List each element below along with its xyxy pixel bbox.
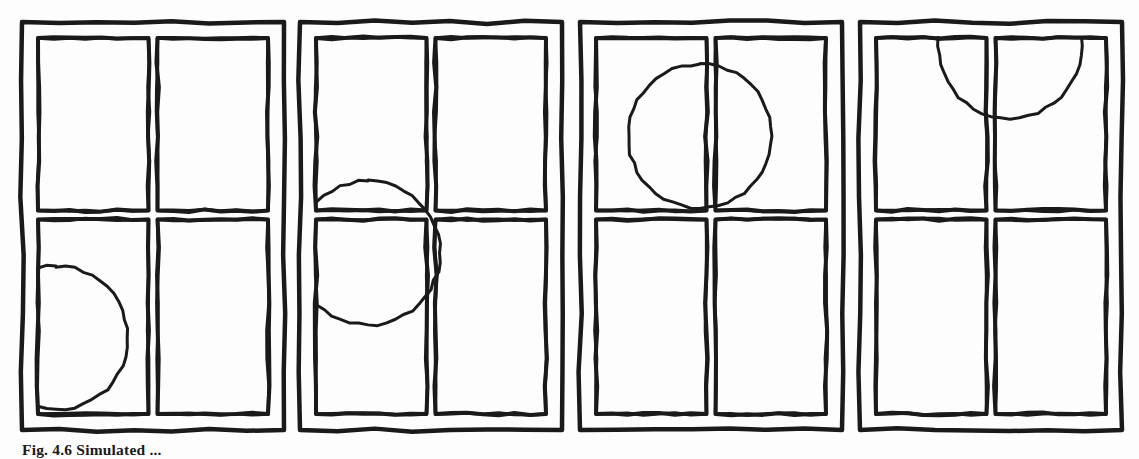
panel-4-pane-top-left (875, 37, 988, 212)
panel-2-pane-top-left-overlay (315, 37, 427, 212)
panel-1-pane-bottom-right (157, 218, 269, 414)
panel-3-outer-frame (579, 20, 844, 430)
panel-1-outer-frame (20, 21, 285, 431)
caption-label: Fig. 4.6 (22, 441, 72, 458)
figure-root: Fig. 4.6 Simulated ... (0, 0, 1139, 459)
panel-1 (22, 22, 284, 430)
caption-text: Simulated ... (76, 441, 161, 458)
panel-1-pane-top-left (38, 37, 150, 212)
panel-3-drawing (574, 16, 848, 436)
panel-2-pane-bottom-right-overlay (435, 218, 547, 415)
panel-4-pane-top-left-overlay (875, 37, 987, 211)
panel-4-pane-bottom-right-overlay (995, 219, 1107, 415)
panel-4-circle-group (938, 16, 1083, 119)
panel-3-pane-top-left-overlay (595, 37, 707, 212)
panel-2-pane-top-right (434, 37, 546, 212)
panel-1-drawing (16, 16, 290, 436)
panel-1-pane-bottom-left-overlay (37, 218, 148, 414)
panel-3-circle-upper-left (629, 64, 772, 209)
panel-2-pane-top-left (315, 37, 428, 212)
panel-1-pane-bottom-right-overlay (157, 219, 269, 415)
panel-1-circle-lower-left (16, 265, 128, 409)
panel-4-pane-top-right-overlay (995, 37, 1107, 212)
panel-4-pane-bottom-left-overlay (876, 219, 987, 415)
panel-2-outer-frame (298, 20, 562, 431)
panel-3-pane-top-left (595, 38, 708, 212)
panel-4-pane-bottom-left (875, 218, 988, 415)
panel-3-pane-bottom-right-overlay (715, 218, 827, 415)
panel-3-pane-bottom-right (714, 218, 827, 415)
panel-1-pane-top-left-overlay (38, 38, 150, 212)
panel-3-pane-bottom-left (595, 218, 707, 415)
panel-4-circle-top-center (938, 16, 1083, 119)
panel-3-circle-group (629, 64, 772, 209)
panel-2-drawing (294, 16, 568, 436)
panel-1-pane-top-right-overlay (156, 37, 269, 211)
panel-2 (300, 22, 562, 430)
panel-4-pane-bottom-right (994, 218, 1107, 414)
panel-strip (0, 0, 1139, 432)
panel-4-drawing (854, 16, 1128, 436)
panel-3-pane-bottom-left-overlay (595, 218, 707, 415)
figure-caption: Fig. 4.6 Simulated ... (22, 440, 1122, 459)
panel-2-pane-bottom-right (434, 219, 547, 416)
panel-4 (860, 22, 1122, 430)
panel-4-outer-frame (858, 20, 1123, 431)
panel-1-circle-group (16, 265, 128, 409)
panel-3 (580, 22, 842, 430)
panel-1-pane-bottom-left (37, 218, 149, 415)
panel-4-pane-top-right (995, 37, 1108, 211)
panel-2-pane-top-right-overlay (435, 37, 547, 212)
panel-1-pane-top-right (156, 38, 269, 212)
